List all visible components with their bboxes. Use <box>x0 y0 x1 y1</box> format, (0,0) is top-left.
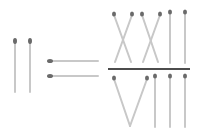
equals-sign <box>47 59 98 78</box>
matchstick[interactable] <box>112 11 131 62</box>
matchstick[interactable] <box>183 73 187 127</box>
matchstick[interactable] <box>183 9 187 63</box>
matchstick[interactable] <box>115 11 134 62</box>
numerator-numeral-XXII <box>112 9 187 63</box>
matchstick-puzzle <box>0 0 199 136</box>
matchstick[interactable] <box>143 11 162 62</box>
denominator-numeral-VIII <box>112 73 187 127</box>
matchstick[interactable] <box>47 74 98 78</box>
matchstick[interactable] <box>13 38 17 92</box>
matchstick[interactable] <box>47 59 98 63</box>
matchstick[interactable] <box>130 75 149 126</box>
left-numeral-II <box>13 38 32 92</box>
matchstick[interactable] <box>153 73 157 127</box>
matchstick[interactable] <box>140 11 158 62</box>
matchstick[interactable] <box>28 38 32 92</box>
matchstick[interactable] <box>168 73 172 127</box>
matchstick[interactable] <box>112 75 130 126</box>
matchstick[interactable] <box>168 9 172 63</box>
